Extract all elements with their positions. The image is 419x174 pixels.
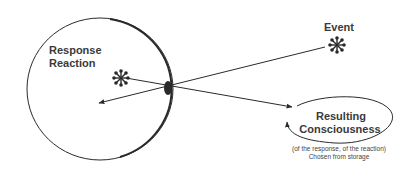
- caption-line2: Chosen from storage: [309, 153, 370, 161]
- ellipse-label-line1: Resulting: [316, 110, 366, 122]
- arrow-event-to-response: [99, 47, 325, 103]
- circle-label-line2: Reaction: [49, 57, 96, 69]
- response-circle: [27, 18, 173, 160]
- arrow-to-consciousness: [126, 78, 292, 107]
- caption-line1: (of the response, of the reaction): [292, 145, 386, 153]
- response-starburst-icon: [112, 69, 130, 87]
- circle-label-line1: Response: [49, 44, 102, 56]
- event-label: Event: [324, 21, 354, 33]
- diagram-canvas: Response Reaction Event Resulting Consci…: [0, 0, 419, 174]
- event-starburst-icon: [328, 36, 346, 54]
- pivot-point: [164, 81, 172, 95]
- ellipse-label-line2: Consciousness: [299, 123, 380, 135]
